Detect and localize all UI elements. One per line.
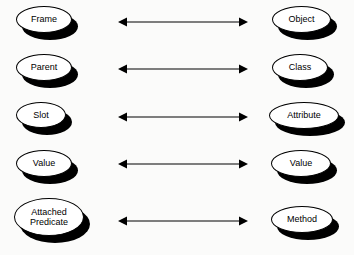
- node-label: Attached Predicate: [30, 207, 68, 228]
- mapping-diagram: FrameObjectParentClassSlotAttributeValue…: [0, 0, 354, 255]
- node-method[interactable]: Method: [271, 206, 333, 233]
- node-body: Attached Predicate: [14, 198, 84, 236]
- arrow-attached-predicate-method: [118, 214, 248, 228]
- node-label: Method: [287, 214, 317, 225]
- mapping-row: Attached PredicateMethod: [0, 0, 354, 255]
- node-body: Method: [271, 206, 333, 233]
- node-attached-predicate[interactable]: Attached Predicate: [14, 198, 84, 236]
